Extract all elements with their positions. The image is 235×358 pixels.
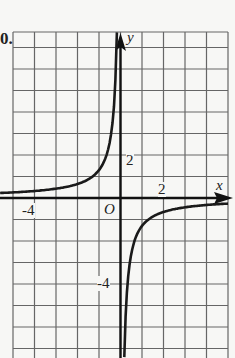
- x-tick-neg4: -4: [22, 203, 35, 218]
- y-axis-label: y: [127, 30, 134, 45]
- hyperbola-chart: [0, 0, 235, 358]
- origin-label: O: [104, 202, 115, 217]
- y-tick-2: 2: [126, 153, 134, 168]
- x-tick-2: 2: [158, 182, 166, 197]
- problem-number: 0.: [0, 30, 13, 47]
- x-axis-label: x: [216, 178, 223, 193]
- y-tick-neg4: -4: [97, 276, 110, 291]
